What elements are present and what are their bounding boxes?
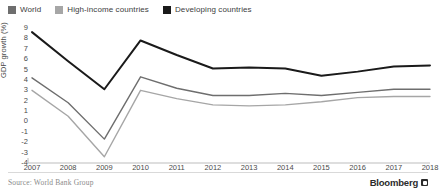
series-line-high-income-countries — [32, 90, 430, 156]
series-line-world — [32, 77, 430, 139]
legend-swatch-high-income-countries — [55, 6, 63, 14]
legend-swatch-developing-countries — [163, 6, 171, 14]
plot-area: GDP growth (%) 9876543210-1-2-3-4 200720… — [0, 18, 436, 170]
source-note: Source: World Bank Group — [8, 178, 94, 187]
legend-item-developing-countries[interactable]: Developing countries — [163, 6, 252, 14]
series-line-developing-countries — [32, 32, 430, 89]
legend-label-world: World — [20, 6, 41, 14]
legend-label-high-income-countries: High-income countries — [67, 6, 149, 14]
legend-label-developing-countries: Developing countries — [175, 6, 252, 14]
brand-label: Bloomberg — [370, 177, 418, 188]
line-chart-canvas — [0, 18, 436, 170]
bloomberg-logo-icon — [421, 179, 428, 186]
legend-swatch-world — [8, 6, 16, 14]
bloomberg-brand: Bloomberg — [370, 177, 428, 188]
legend-item-high-income-countries[interactable]: High-income countries — [55, 6, 149, 14]
legend-item-world[interactable]: World — [8, 6, 41, 14]
chart-legend: World High-income countries Developing c… — [8, 3, 252, 16]
footer-divider — [8, 172, 428, 173]
